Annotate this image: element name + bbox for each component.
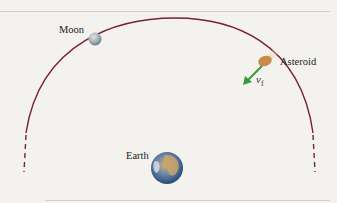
orbit-path [24, 18, 315, 172]
earth-icon [151, 152, 183, 184]
velocity-label: vf [256, 73, 264, 88]
earth-label: Earth [126, 150, 149, 161]
moon-icon [89, 33, 102, 46]
asteroid-icon [257, 46, 282, 68]
asteroid-label: Asteroid [280, 56, 316, 67]
orbit-diagram [0, 0, 337, 203]
moon-label: Moon [59, 24, 84, 35]
velocity-subscript: f [261, 79, 264, 88]
